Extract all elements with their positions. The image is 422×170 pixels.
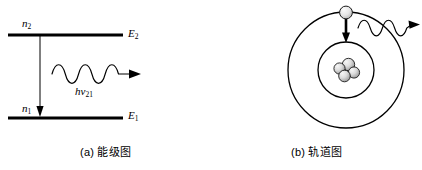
photon-wave-arrow-head [129,70,141,79]
panel-energy-level-diagram: n2 n1 E2 E1 hν21 (a) 能级图 [0,0,211,170]
electron-sphere [340,6,353,19]
label-population-upper: n2 [22,18,31,29]
label-energy-upper: E2 [128,28,138,39]
caption-panel-b: (b) 轨道图 [211,143,422,159]
label-energy-lower: E1 [128,110,138,121]
energy-level-diagram-graphics [0,0,211,140]
orbital-diagram-graphics [211,0,422,140]
figure-root: n2 n1 E2 E1 hν21 (a) 能级图 [0,0,422,170]
transition-arrow-head [36,106,43,117]
photon-wave-path [52,65,131,84]
nucleon-sphere [339,70,351,82]
label-population-lower: n1 [22,103,31,114]
caption-panel-a: (a) 能级图 [0,143,211,159]
panel-orbital-diagram: (b) 轨道图 [211,0,422,170]
photon-wave-path [358,20,411,36]
nucleus-group [334,58,360,81]
electron-drop-arrow-head [342,33,350,44]
label-photon-energy: hν21 [75,86,93,97]
photon-wave-arrow-head [409,21,421,29]
